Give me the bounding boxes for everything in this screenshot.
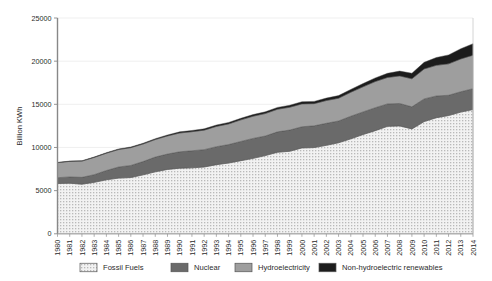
chart-container: 0500010000150002000025000 19801981198219…: [0, 0, 492, 281]
x-tick-label: 1996: [249, 240, 258, 256]
x-tick-label: 1998: [273, 240, 282, 256]
x-tick-label: 1987: [139, 240, 148, 256]
legend-swatch-fossil-fuels[interactable]: [80, 263, 97, 272]
x-tick-label: 1999: [285, 240, 294, 256]
x-tick-label: 1994: [224, 240, 233, 256]
y-axis-ticks: 0500010000150002000025000: [32, 14, 58, 239]
x-tick-label: 1983: [90, 240, 99, 256]
chart-legend: Fossil FuelsNuclearHydroelectricityNon-h…: [80, 263, 443, 272]
x-tick-label: 2008: [395, 240, 404, 256]
x-tick-label: 1981: [65, 240, 74, 256]
x-tick-label: 2013: [456, 240, 465, 256]
chart-svg: 0500010000150002000025000 19801981198219…: [0, 0, 492, 281]
x-tick-label: 2011: [432, 240, 441, 255]
x-tick-label: 1990: [175, 240, 184, 256]
x-tick-label: 2005: [359, 240, 368, 256]
y-tick-label: 25000: [32, 14, 52, 23]
x-tick-label: 2001: [310, 240, 319, 256]
x-tick-label: 1992: [200, 240, 209, 256]
x-tick-label: 1991: [188, 240, 197, 256]
x-tick-label: 2003: [334, 240, 343, 256]
area-series-group: [58, 18, 474, 234]
x-tick-label: 1985: [114, 240, 123, 256]
y-tick-label: 5000: [36, 186, 52, 195]
x-tick-label: 1997: [261, 240, 270, 256]
x-tick-label: 2012: [444, 240, 453, 256]
legend-label-non-hydroelectric-renewables[interactable]: Non-hydroelectric renewables: [342, 263, 443, 272]
x-tick-label: 1988: [151, 240, 160, 256]
x-tick-label: 1989: [163, 240, 172, 256]
x-tick-label: 2007: [383, 240, 392, 256]
x-tick-label: 1986: [126, 240, 135, 256]
x-tick-label: 2000: [298, 240, 307, 256]
x-tick-label: 2014: [469, 240, 478, 256]
x-axis-ticks: 1980198119821983198419851986198719881989…: [53, 234, 478, 256]
legend-label-nuclear[interactable]: Nuclear: [194, 263, 221, 272]
x-tick-label: 2010: [420, 240, 429, 256]
legend-swatch-hydroelectricity[interactable]: [235, 263, 252, 272]
legend-swatch-nuclear[interactable]: [171, 263, 188, 272]
x-tick-label: 1995: [236, 240, 245, 256]
x-tick-label: 1984: [102, 240, 111, 256]
x-tick-label: 1993: [212, 240, 221, 256]
x-tick-label: 1980: [53, 240, 62, 256]
x-tick-label: 2006: [371, 240, 380, 256]
x-tick-label: 2002: [322, 240, 331, 256]
legend-swatch-non-hydroelectric-renewables[interactable]: [319, 263, 336, 272]
legend-label-fossil-fuels[interactable]: Fossil Fuels: [103, 263, 144, 272]
y-tick-label: 15000: [32, 100, 52, 109]
y-axis-title: Billion KWh: [15, 107, 24, 146]
stacked-area-chart-figure: 0500010000150002000025000 19801981198219…: [0, 0, 492, 281]
y-tick-label: 10000: [32, 143, 52, 152]
y-tick-label: 0: [48, 229, 52, 238]
x-tick-label: 1982: [78, 240, 87, 256]
legend-label-hydroelectricity[interactable]: Hydroelectricity: [258, 263, 310, 272]
y-tick-label: 20000: [32, 57, 52, 66]
x-tick-label: 2009: [408, 240, 417, 256]
x-tick-label: 2004: [346, 240, 355, 256]
